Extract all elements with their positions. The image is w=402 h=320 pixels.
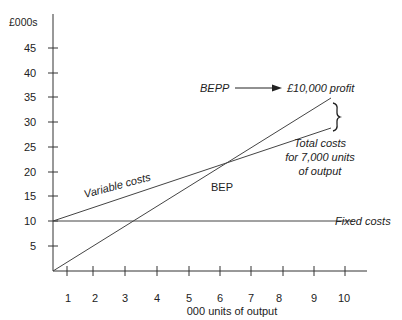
svg-text:25: 25 [24,141,36,153]
svg-text:1: 1 [65,292,71,304]
svg-text:35: 35 [24,91,36,103]
svg-text:10: 10 [24,215,36,227]
svg-text:45: 45 [24,42,36,54]
svg-text:5: 5 [186,292,192,304]
svg-text:10: 10 [338,292,350,304]
svg-text:8: 8 [276,292,282,304]
svg-text:of output: of output [299,165,343,177]
y-axis-unit: £000s [9,16,38,28]
svg-text:9: 9 [311,292,317,304]
svg-text:40: 40 [24,67,36,79]
bepp-label: BEPP [200,82,230,94]
svg-text:20: 20 [24,166,36,178]
y-tick-labels: 5 10 15 20 25 30 35 40 45 £000s [9,16,38,252]
variable-costs-label: Variable costs [82,170,152,199]
profit-brace [333,103,340,131]
bep-label: BEP [211,181,233,193]
svg-text:Total costs: Total costs [294,137,347,149]
svg-text:6: 6 [217,292,223,304]
total-costs-annotation: Total costs for 7,000 units of output [285,137,355,177]
svg-text:30: 30 [24,116,36,128]
svg-text:15: 15 [24,190,36,202]
total-costs-line [53,128,331,221]
svg-text:5: 5 [30,240,36,252]
profit-label: £10,000 profit [286,82,355,94]
fixed-costs-label: Fixed costs [335,215,391,227]
svg-text:3: 3 [122,292,128,304]
x-axis-label: 000 units of output [187,305,278,317]
svg-text:for 7,000 units: for 7,000 units [285,151,355,163]
x-tick-labels: 1 2 3 4 5 6 7 8 9 10 000 units of output [65,292,350,317]
arrow-head-icon [272,85,282,92]
svg-text:7: 7 [248,292,254,304]
svg-text:2: 2 [92,292,98,304]
break-even-chart: 5 10 15 20 25 30 35 40 45 £000s 1 2 3 4 … [0,0,402,320]
svg-text:4: 4 [154,292,160,304]
